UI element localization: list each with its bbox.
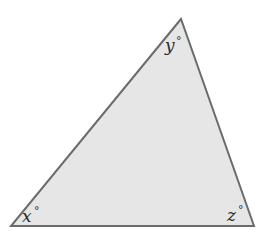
degree-symbol-z: ° [238,203,244,216]
triangle-svg: x ° y ° z ° [0,0,261,242]
angle-variable-y: y [164,35,175,55]
angle-variable-z: z [226,205,237,225]
degree-symbol-y: ° [176,34,182,47]
angle-variable-x: x [22,206,32,226]
triangle-diagram: x ° y ° z ° [0,0,261,242]
triangle-shape [11,19,254,226]
degree-symbol-x: ° [34,204,40,217]
